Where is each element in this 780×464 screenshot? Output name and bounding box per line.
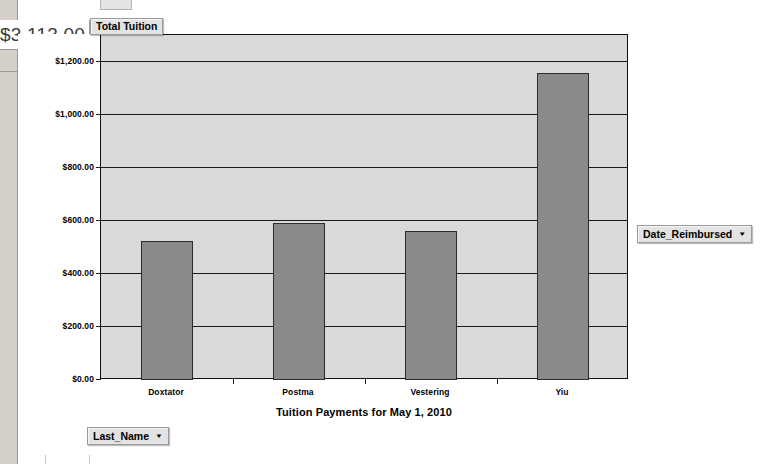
x-axis-category-label: Postma: [282, 387, 313, 397]
chevron-down-icon[interactable]: ▼: [738, 231, 746, 237]
y-axis-tick-label: $1,000.00: [55, 109, 94, 119]
x-axis-category-label: Vestering: [410, 387, 449, 397]
pivot-toolbar-fragment: [100, 0, 132, 10]
chart-bar[interactable]: [537, 73, 589, 380]
pivot-field-label: Date_Reimbursed: [643, 229, 732, 240]
y-axis-tick-label: $0.00: [72, 374, 94, 384]
x-axis-tick: [365, 379, 366, 384]
x-axis-tick: [497, 379, 498, 384]
chart-bar[interactable]: [405, 231, 457, 380]
y-axis-tick: [96, 379, 101, 380]
y-axis: $0.00$200.00$400.00$600.00$800.00$1,000.…: [18, 34, 94, 379]
plot-area: [100, 34, 628, 379]
x-axis-tick: [233, 379, 234, 384]
pivot-chart-object[interactable]: $0.00$200.00$400.00$600.00$800.00$1,000.…: [18, 34, 780, 455]
y-axis-tick-label: $200.00: [63, 321, 94, 331]
y-axis-tick: [96, 220, 101, 221]
chart-bar[interactable]: [141, 241, 193, 380]
y-axis-tick: [96, 273, 101, 274]
y-axis-tick-label: $800.00: [63, 162, 94, 172]
worksheet-cell-empty[interactable]: [0, 50, 18, 72]
gridline: [101, 61, 627, 62]
chart-bar[interactable]: [273, 223, 325, 380]
y-axis-tick: [96, 326, 101, 327]
y-axis-tick: [96, 61, 101, 62]
pivot-field-label: Last_Name: [93, 431, 149, 442]
y-axis-tick-label: $600.00: [63, 215, 94, 225]
x-axis-category-label: Yiu: [555, 387, 568, 397]
y-axis-tick-label: $1,200.00: [55, 56, 94, 66]
pivot-field-button-total-tuition[interactable]: Total Tuition: [90, 18, 163, 35]
pivot-field-button-last-name[interactable]: Last_Name ▼: [87, 427, 169, 445]
pivot-field-button-date-reimbursed[interactable]: Date_Reimbursed ▼: [637, 225, 752, 243]
pivot-field-label: Total Tuition: [96, 21, 157, 32]
chart-title: Tuition Payments for May 1, 2010: [100, 406, 628, 418]
chevron-down-icon[interactable]: ▼: [155, 433, 163, 439]
y-axis-tick: [96, 167, 101, 168]
y-axis-tick-label: $400.00: [63, 268, 94, 278]
x-axis-category-label: Doxtator: [148, 387, 184, 397]
y-axis-tick: [96, 114, 101, 115]
